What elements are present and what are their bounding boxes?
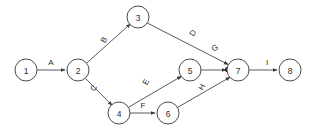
node-8[interactable]: 8: [279, 59, 301, 81]
node-3-label: 3: [136, 13, 141, 23]
edge-E: [129, 76, 182, 107]
edge-label-H: H: [197, 82, 208, 92]
node-2-label: 2: [76, 66, 81, 76]
node-7[interactable]: 7: [227, 59, 249, 81]
node-5-label: 5: [188, 66, 193, 76]
node-1[interactable]: 1: [15, 59, 37, 81]
node-1-label: 1: [24, 66, 29, 76]
graph-canvas: A B C D E F G H I 1 2 3: [0, 0, 311, 132]
edge-label-D: D: [188, 28, 199, 38]
node-8-label: 8: [288, 66, 293, 76]
node-2[interactable]: 2: [67, 59, 89, 81]
edge-label-I: I: [266, 58, 268, 67]
node-3[interactable]: 3: [127, 6, 149, 28]
node-6[interactable]: 6: [157, 102, 179, 124]
activity-network-diagram: A B C D E F G H I 1 2 3: [0, 0, 311, 132]
edge-label-B: B: [99, 36, 109, 45]
edge-B: [87, 24, 131, 63]
edge-label-F: F: [141, 101, 146, 110]
node-6-label: 6: [166, 109, 171, 119]
edge-label-G: G: [210, 43, 220, 54]
node-5[interactable]: 5: [179, 59, 201, 81]
nodes-layer: 1 2 3 4 5 6: [15, 6, 301, 124]
node-7-label: 7: [236, 66, 241, 76]
edge-label-E: E: [141, 78, 151, 87]
edge-label-A: A: [48, 58, 54, 67]
edge-C: [86, 79, 113, 106]
node-4-label: 4: [117, 109, 122, 119]
node-4[interactable]: 4: [108, 102, 130, 124]
